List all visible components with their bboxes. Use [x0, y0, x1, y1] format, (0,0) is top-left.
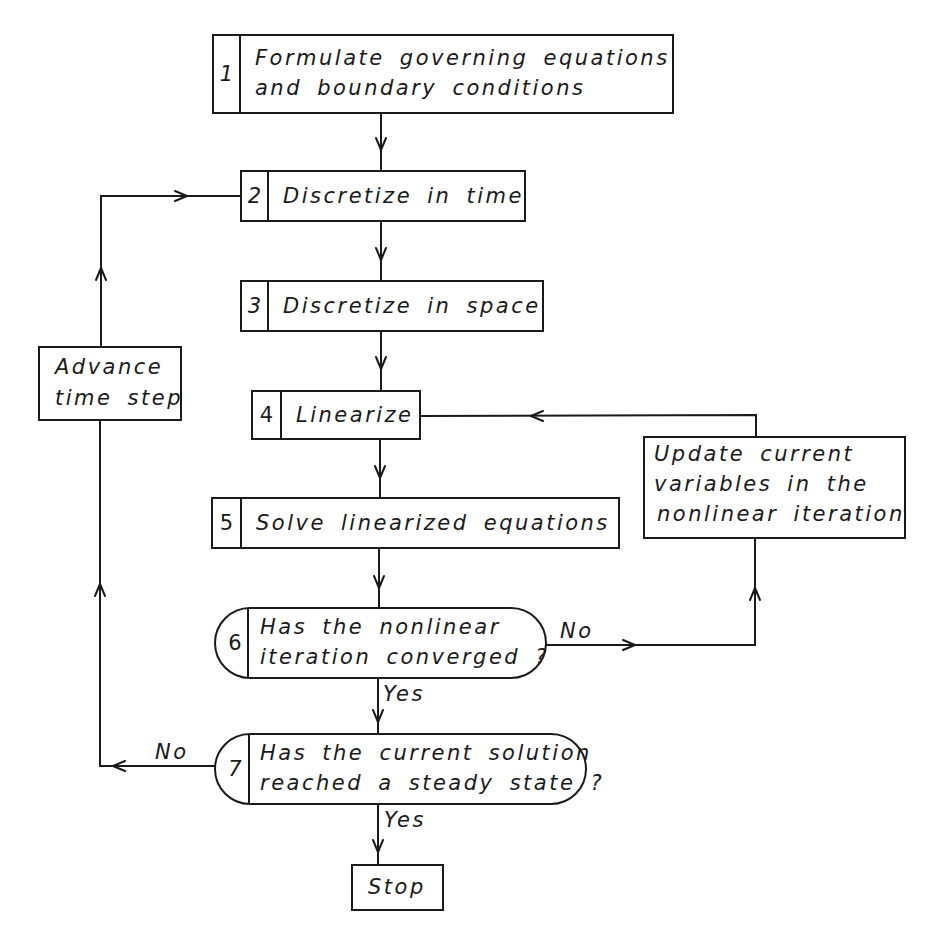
- step-5-number: 5: [212, 509, 241, 537]
- connector-3-4: [376, 331, 386, 391]
- step-6-no-label: No: [560, 617, 594, 645]
- connector-advance-2: [96, 191, 241, 347]
- step-5-label: Solve linearized equations: [256, 509, 610, 537]
- flowchart-canvas: 1 2 3 4 5 6 7 Formulate governing equati…: [0, 0, 936, 941]
- step-7-no-label: No: [155, 738, 189, 766]
- step-1-number: 1: [213, 60, 240, 88]
- update-line-3: nonlinear iteration: [657, 500, 905, 528]
- step-1-line-2: and boundary conditions: [255, 74, 585, 102]
- step-6-number: 6: [222, 629, 248, 657]
- step-2-number: 2: [241, 182, 268, 210]
- update-line-1: Update current: [654, 440, 854, 468]
- connector-7-advance-no: [95, 420, 216, 771]
- step-6-line-2: iteration converged ?: [260, 643, 549, 671]
- step-3-number: 3: [241, 292, 268, 320]
- connector-7-stop-yes: [373, 804, 383, 865]
- advance-line-1: Advance: [55, 353, 163, 381]
- connector-2-3: [376, 221, 386, 281]
- step-6-line-1: Has the nonlinear: [260, 613, 501, 641]
- connector-4-5: [375, 439, 385, 498]
- update-line-2: variables in the: [654, 470, 869, 498]
- step-3-label: Discretize in space: [283, 292, 541, 320]
- step-7-line-1: Has the current solution: [260, 739, 592, 767]
- connector-5-6: [374, 548, 384, 608]
- step-1-line-1: Formulate governing equations: [255, 44, 670, 72]
- step-2-label: Discretize in time: [283, 182, 524, 210]
- step-7-yes-label: Yes: [384, 806, 426, 834]
- step-7-number: 7: [222, 755, 248, 783]
- stop-label: Stop: [368, 873, 426, 901]
- advance-line-2: time step: [55, 384, 183, 412]
- step-7-line-2: reached a steady state ?: [260, 769, 604, 797]
- step-6-yes-label: Yes: [383, 680, 425, 708]
- connector-1-2: [376, 113, 386, 171]
- step-4-number: 4: [252, 401, 281, 429]
- step-4-label: Linearize: [296, 401, 414, 429]
- connector-6-7-yes: [373, 678, 383, 734]
- connector-update-4: [420, 411, 756, 437]
